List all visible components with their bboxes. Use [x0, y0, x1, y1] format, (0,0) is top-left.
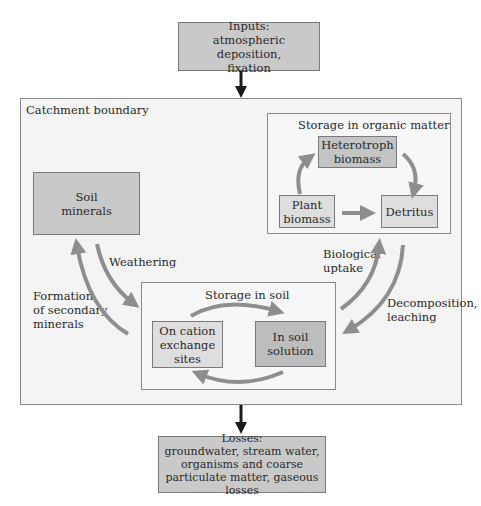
plant-to-heterotroph-arrow-icon	[298, 158, 309, 194]
solution-to-cation-arrow-icon	[199, 372, 283, 382]
cation-to-solution-arrow-icon	[191, 305, 277, 316]
flow-arrows	[0, 0, 481, 506]
heterotroph-detritus-arrow-icon	[403, 154, 416, 191]
weathering-arrow-icon	[97, 244, 133, 303]
uptake-arrow-icon	[341, 246, 379, 309]
